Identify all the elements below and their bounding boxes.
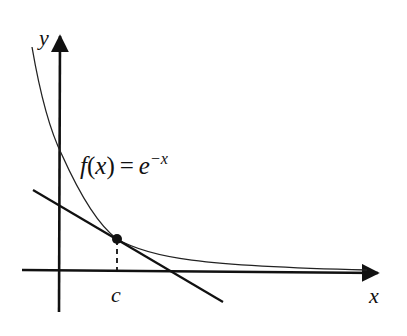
x-axis (22, 270, 378, 273)
x-axis-label: x (368, 283, 379, 308)
y-axis-label: y (37, 25, 49, 50)
tangent-line (33, 190, 223, 302)
point-c-label: c (111, 282, 121, 307)
y-axis (59, 36, 60, 312)
tangency-point (112, 234, 122, 244)
function-label: f(x)=e−x (80, 150, 168, 180)
tangent-line-diagram: y x c f(x)=e−x (0, 0, 407, 336)
